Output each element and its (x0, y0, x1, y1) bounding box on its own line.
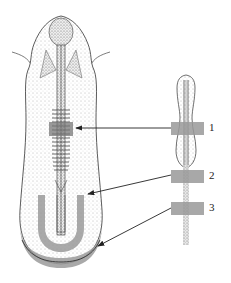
arrow-3 (98, 208, 171, 246)
label-region-3: 3 (209, 201, 215, 213)
label-region-1: 1 (209, 121, 215, 133)
graft-band-2 (171, 170, 204, 183)
graft-band-3 (171, 202, 204, 215)
head-brain (49, 18, 73, 46)
large-embryo (12, 16, 110, 268)
graft-band-1 (171, 122, 204, 135)
label-region-2: 2 (209, 169, 215, 181)
small-embryo (171, 75, 204, 245)
graft-region-somites (49, 122, 73, 136)
embryo-diagram (0, 0, 231, 283)
arrow-2 (88, 175, 171, 194)
